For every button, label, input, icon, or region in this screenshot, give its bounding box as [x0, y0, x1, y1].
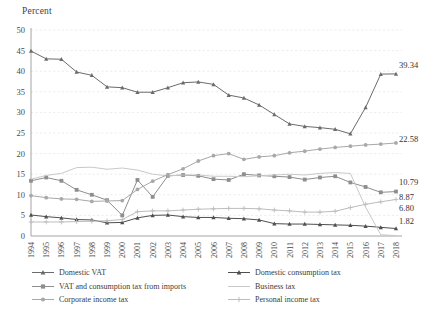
legend-column-left: Domestic VATVAT and consumption tax from… [32, 266, 186, 307]
y-axis-tick-label: 30 [17, 107, 26, 117]
legend-marker-square-icon [32, 282, 54, 291]
x-axis-tick-label: 2013 [316, 242, 325, 258]
data-point-marker [302, 210, 307, 215]
data-point-marker [29, 179, 33, 183]
y-axis-tick-label: 25 [17, 128, 26, 138]
legend-item-left-0[interactable]: Domestic VAT [32, 266, 186, 280]
data-point-marker [44, 220, 49, 225]
x-axis-tick-label: 2017 [377, 242, 386, 258]
data-point-marker [318, 210, 323, 215]
data-point-marker [212, 177, 216, 181]
data-point-marker [59, 220, 64, 225]
legend-point-marker [41, 284, 45, 288]
x-axis-tick-label: 1998 [88, 242, 97, 258]
data-point-marker [318, 147, 322, 151]
legend-item-label: Domestic consumption tax [255, 268, 341, 277]
legend-item-right-1[interactable]: Business tax [228, 280, 341, 294]
legend-item-label: VAT and consumption tax from imports [59, 282, 186, 291]
data-point-marker [394, 197, 399, 202]
data-point-marker [75, 197, 79, 201]
x-axis-tick-label: 2008 [240, 242, 249, 258]
data-point-marker [348, 205, 353, 210]
y-axis-tick-label: 10 [17, 190, 26, 200]
legend-column-right: Domestic consumption taxBusiness taxPers… [228, 266, 341, 307]
legend-item-right-0[interactable]: Domestic consumption tax [228, 266, 341, 280]
legend-marker-triangle-icon [228, 268, 250, 277]
data-point-marker [242, 157, 246, 161]
x-axis-tick-label: 2007 [225, 242, 234, 258]
data-point-marker [378, 199, 383, 204]
data-point-marker [272, 154, 276, 158]
data-point-marker [196, 207, 201, 212]
data-point-marker [151, 179, 155, 183]
legend-marker-circle-icon [32, 295, 54, 304]
x-axis-tick-label: 1996 [57, 242, 66, 258]
data-point-marker [272, 112, 276, 116]
data-point-marker [379, 142, 383, 146]
data-point-marker [181, 208, 186, 213]
data-point-marker [333, 209, 338, 214]
data-point-marker [318, 176, 322, 180]
legend-marker-none-icon [228, 282, 250, 291]
y-axis-tick-label: 50 [17, 25, 26, 35]
data-point-marker [151, 195, 155, 199]
legend-marker-triangle-icon [32, 268, 54, 277]
x-axis-tick-label: 2005 [194, 242, 203, 258]
data-point-marker [333, 174, 337, 178]
x-axis-tick-label: 2003 [164, 242, 173, 258]
data-point-marker [333, 146, 337, 150]
data-point-marker [136, 188, 140, 192]
series-line [31, 51, 396, 134]
data-point-marker [242, 206, 247, 211]
data-point-marker [227, 152, 231, 156]
data-point-marker [135, 209, 140, 214]
x-axis-tick-label: 2010 [270, 242, 279, 258]
series-4 [29, 141, 398, 203]
y-axis-tick-label: 5 [21, 210, 25, 220]
x-axis-tick-label: 2018 [392, 242, 401, 258]
y-axis-tick-label: 40 [17, 66, 26, 76]
y-axis-tick-label: 45 [17, 46, 26, 56]
data-point-marker [90, 193, 94, 197]
legend-item-right-2[interactable]: Personal income tax [228, 293, 341, 307]
legend-marker-plus-icon [228, 295, 250, 304]
data-point-marker [105, 199, 109, 203]
data-point-marker [44, 196, 48, 200]
x-axis-tick-label: 1994 [27, 242, 36, 258]
x-axis-tick-label: 2009 [255, 242, 264, 258]
y-axis-tick-label: 15 [17, 169, 26, 179]
data-point-marker [303, 178, 307, 182]
data-point-marker [364, 143, 368, 147]
x-axis-tick-label: 2001 [133, 242, 142, 258]
legend-point-marker [41, 298, 45, 302]
data-point-marker [136, 178, 140, 182]
data-point-marker [272, 208, 277, 213]
series-5 [29, 197, 399, 224]
data-point-marker [257, 206, 262, 211]
chart-legend: Domestic VATVAT and consumption tax from… [0, 266, 425, 312]
x-axis-tick-label: 2002 [149, 242, 158, 258]
series-end-value-label: 1.82 [399, 216, 414, 226]
x-axis-tick-label: 2012 [301, 242, 310, 258]
series-end-value-label: 22.58 [399, 134, 418, 144]
x-axis-tick-label: 1999 [103, 242, 112, 258]
x-axis-tick-label: 2016 [362, 242, 371, 258]
data-point-marker [227, 178, 231, 182]
legend-point-marker [236, 297, 241, 302]
data-point-marker [364, 185, 368, 189]
x-axis-tick-label: 2006 [210, 242, 219, 258]
legend-item-label: Corporate income tax [59, 295, 128, 304]
data-point-marker [211, 206, 216, 211]
data-point-marker [60, 179, 64, 183]
data-point-marker [242, 172, 246, 176]
data-point-marker [29, 194, 33, 198]
legend-item-left-1[interactable]: VAT and consumption tax from imports [32, 280, 186, 294]
data-point-marker [150, 208, 155, 213]
data-point-marker [394, 141, 398, 145]
series-end-value-label: 39.34 [399, 60, 419, 70]
data-point-marker [90, 199, 94, 203]
data-point-marker [120, 199, 124, 203]
x-axis-tick-label: 2000 [118, 242, 127, 258]
legend-item-left-2[interactable]: Corporate income tax [32, 293, 186, 307]
y-axis-tick-label: 0 [21, 231, 25, 241]
